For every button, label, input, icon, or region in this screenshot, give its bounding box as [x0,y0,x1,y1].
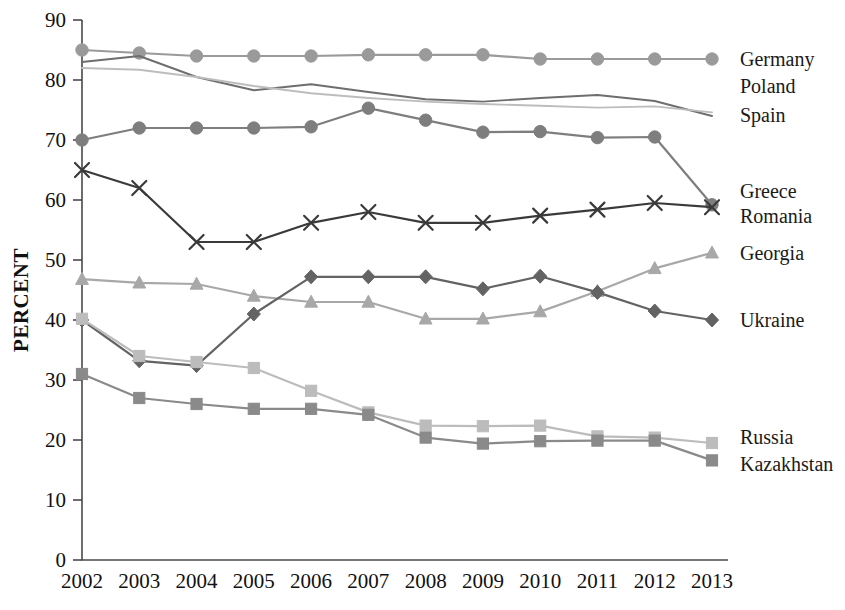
data-point-marker [305,121,317,133]
x-tick-label: 2008 [405,569,447,593]
legend-label-georgia: Georgia [740,242,804,265]
legend-labels: GermanyPolandSpainGreeceRomaniaGeorgiaUk… [740,48,833,475]
data-point-marker [190,50,202,62]
data-point-marker [705,313,718,327]
x-tick-label: 2006 [290,569,332,593]
data-point-marker [706,246,719,258]
data-point-marker [706,53,718,65]
data-point-marker [419,114,431,126]
series-ukraine [75,269,718,372]
data-point-marker [305,385,316,396]
y-tick-label: 60 [45,188,66,212]
data-point-marker [591,53,603,65]
y-tick-label: 70 [45,128,66,152]
legend-label-ukraine: Ukraine [740,309,805,331]
data-point-marker [248,362,259,373]
data-point-marker [134,350,145,361]
legend-label-poland: Poland [740,75,796,97]
y-tick-label: 50 [45,248,66,272]
data-point-marker [248,403,259,414]
y-tick-label: 20 [45,428,66,452]
data-point-marker [534,269,547,283]
line-chart: 0102030405060708090 20022003200420052006… [0,0,845,610]
y-tick-label: 10 [45,488,66,512]
x-tick-label: 2013 [691,569,733,593]
axes [73,20,728,560]
data-point-marker [535,436,546,447]
data-point-marker [76,313,87,324]
x-tick-label: 2012 [634,569,676,593]
data-point-marker [132,181,146,195]
x-tick-label: 2004 [176,569,219,593]
data-point-marker [76,134,88,146]
data-point-marker [477,421,488,432]
data-point-marker [534,125,546,137]
series-romania [75,163,719,249]
x-tick-label: 2007 [347,569,389,593]
data-point-marker [248,122,260,134]
data-point-marker [591,131,603,143]
x-tick-label: 2011 [577,569,618,593]
series-germany [76,44,718,65]
data-point-marker [420,420,431,431]
data-point-marker [476,282,489,296]
x-tick-label: 2009 [462,569,504,593]
y-tick-labels: 0102030405060708090 [45,8,66,572]
data-point-marker [419,49,431,61]
data-point-marker [535,420,546,431]
data-point-marker [477,49,489,61]
legend-label-spain: Spain [740,104,786,127]
x-tick-label: 2010 [519,569,561,593]
data-point-marker [133,122,145,134]
data-point-marker [305,50,317,62]
series-georgia [76,246,719,324]
data-point-marker [706,199,718,211]
x-tick-label: 2003 [118,569,160,593]
data-point-marker [706,437,717,448]
y-tick-label: 40 [45,308,66,332]
data-point-marker [304,270,317,284]
legend-label-germany: Germany [740,48,814,71]
data-point-marker [362,49,374,61]
data-point-marker [191,356,202,367]
y-tick-label: 90 [45,8,66,32]
data-point-marker [76,44,88,56]
data-point-marker [534,53,546,65]
data-point-marker [134,392,145,403]
data-point-marker [649,131,661,143]
y-axis-title: PERCENT [9,248,33,352]
data-point-marker [648,304,661,318]
data-point-marker [591,285,604,299]
legend-label-greece: Greece [740,180,797,202]
plot-canvas: 0102030405060708090 20022003200420052006… [0,0,845,610]
data-point-marker [649,53,661,65]
data-point-marker [477,126,489,138]
data-point-marker [706,455,717,466]
data-point-marker [362,102,374,114]
y-tick-label: 80 [45,68,66,92]
series-kazakhstan [76,368,717,466]
series-russia [76,313,717,448]
data-point-marker [592,435,603,446]
legend-label-kazakhstan: Kazakhstan [740,453,833,475]
series-greece [76,102,718,211]
data-point-marker [363,409,374,420]
legend-label-russia: Russia [740,426,793,448]
y-tick-label: 30 [45,368,66,392]
data-point-marker [76,368,87,379]
x-tick-label: 2005 [233,569,275,593]
data-point-marker [649,435,660,446]
series-spain [82,68,712,112]
data-point-marker [477,438,488,449]
data-series-layer [75,44,719,466]
data-point-marker [191,398,202,409]
data-point-marker [420,432,431,443]
x-tick-label: 2002 [61,569,103,593]
data-point-marker [190,122,202,134]
data-point-marker [362,270,375,284]
legend-label-romania: Romania [740,205,812,227]
data-point-marker [419,270,432,284]
x-tick-labels: 2002200320042005200620072008200920102011… [61,569,733,593]
data-point-marker [248,50,260,62]
data-point-marker [305,403,316,414]
